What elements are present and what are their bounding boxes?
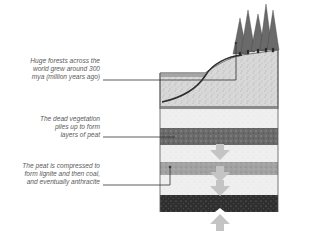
- label-forests: Huge forests across the world grew aroun…: [30, 57, 100, 81]
- arrow-up-icon: [210, 214, 230, 231]
- peat-layer: [160, 128, 278, 145]
- forest-trees: [233, 4, 279, 56]
- label-line: Huge forests across the: [30, 57, 100, 65]
- label-peat: The dead vegetation piles up to form lay…: [40, 115, 100, 139]
- forest-soil-layer: [160, 50, 278, 109]
- label-line: The dead vegetation: [40, 115, 100, 123]
- label-line: form lignite and then coal,: [22, 170, 100, 178]
- label-line: world grew around 300: [30, 65, 100, 73]
- label-line: piles up to form: [40, 123, 100, 131]
- coal-layer: [160, 195, 278, 212]
- label-line: The peat is compressed to: [22, 162, 100, 170]
- label-compression: The peat is compressed to form lignite a…: [22, 162, 100, 186]
- label-line: layers of peat: [40, 131, 100, 139]
- label-line: and eventually anthracite: [22, 178, 100, 186]
- label-line: mya (million years ago): [30, 73, 100, 81]
